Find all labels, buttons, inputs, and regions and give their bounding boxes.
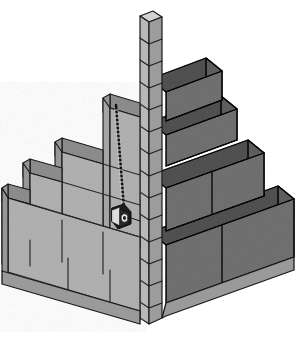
- block-end-face: [2, 188, 8, 281]
- block-front-face: [103, 98, 110, 238]
- masonry-corner-illustration: Masonry corner lead with story pole and …: [0, 0, 298, 338]
- illustration-canvas: [0, 0, 298, 338]
- reel-hub-center: [123, 216, 126, 220]
- pole-front-face: [140, 16, 149, 324]
- story-pole: [140, 11, 162, 324]
